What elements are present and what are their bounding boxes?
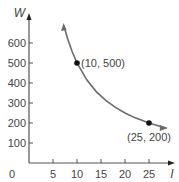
x-tick-label: 10 (71, 168, 83, 180)
y-axis-label: W (14, 6, 27, 20)
curve-arrow-up-icon (61, 23, 67, 31)
y-tick-label: 500 (8, 57, 26, 69)
y-tick-label: 400 (8, 77, 26, 89)
chart: 1002003004005006000510152025WI (10, 500)… (0, 0, 179, 182)
x-tick-label: 20 (119, 168, 131, 180)
x-axis-arrow-icon (168, 161, 175, 166)
curve-line (64, 26, 166, 128)
x-axis-label: I (170, 167, 174, 181)
x-tick-label: 15 (95, 168, 107, 180)
x-tick-label: 0 (9, 168, 15, 180)
y-tick-label: 600 (8, 37, 26, 49)
data-point-label: (10, 500) (81, 57, 125, 69)
axes: 1002003004005006000510152025WI (8, 6, 175, 181)
data-point (74, 60, 80, 66)
data-points: (10, 500)(25, 200) (74, 57, 171, 143)
y-tick-label: 300 (8, 97, 26, 109)
y-tick-label: 200 (8, 117, 26, 129)
x-tick-label: 25 (143, 168, 155, 180)
data-point (146, 120, 152, 126)
y-tick-label: 100 (8, 137, 26, 149)
data-point-label: (25, 200) (127, 131, 171, 143)
y-axis-arrow-icon (27, 13, 32, 20)
curve (61, 23, 168, 131)
x-tick-label: 5 (50, 168, 56, 180)
